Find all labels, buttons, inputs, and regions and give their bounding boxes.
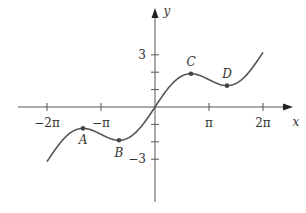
x-axis-arrow-icon — [283, 104, 293, 111]
point-b-label: B — [114, 146, 124, 160]
y-tick-label: −3 — [128, 152, 146, 166]
point-d-marker — [225, 83, 230, 88]
function-graph: ABCD −2π−ππ2π3−3xy — [0, 0, 306, 213]
point-b-marker — [117, 138, 122, 143]
axis-labels: −2π−ππ2π3−3xy — [34, 4, 299, 166]
y-axis-label: y — [163, 4, 171, 18]
point-c-marker — [189, 71, 194, 76]
y-axis-arrow-icon — [152, 8, 159, 18]
x-axis-label: x — [293, 115, 300, 129]
x-tick-label: 2π — [255, 116, 271, 130]
x-tick-label: −2π — [34, 116, 60, 130]
x-tick-label: π — [205, 116, 213, 130]
point-a-marker — [81, 126, 86, 131]
point-d-label: D — [221, 67, 232, 81]
x-tick-label: −π — [92, 116, 110, 130]
y-tick-label: 3 — [138, 48, 146, 62]
point-a-label: A — [78, 133, 88, 147]
point-c-label: C — [186, 55, 195, 69]
